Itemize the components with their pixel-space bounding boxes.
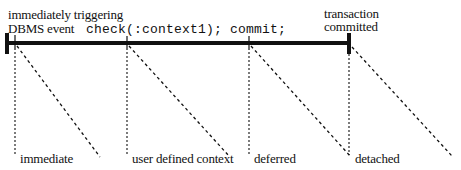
commit-statement-label: commit;: [230, 23, 286, 36]
end-marker: [347, 33, 351, 54]
start-event-label-line1: immediately triggering: [8, 8, 123, 21]
deferred-diagonal-dash: [251, 46, 351, 157]
user-defined-diagonal-dash: [129, 46, 229, 156]
immediate-diagonal-dash: [17, 46, 100, 157]
detached-diagonal-dash: [352, 47, 452, 156]
end-event-label-line2: committed: [324, 20, 378, 33]
coupling-mode-deferred: deferred: [254, 152, 296, 165]
start-marker: [5, 33, 9, 54]
start-event-label-line2: DBMS event: [8, 22, 74, 35]
coupling-mode-detached: detached: [355, 152, 400, 165]
coupling-mode-user-defined-context: user defined context: [132, 152, 233, 165]
coupling-mode-immediate: immediate: [20, 152, 73, 165]
check-statement-label: check(:context1);: [86, 23, 222, 36]
